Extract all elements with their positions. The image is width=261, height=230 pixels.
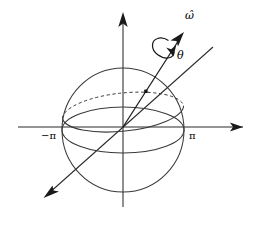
pi-negative-label: −π — [41, 130, 56, 141]
pi-positive-label: π — [189, 130, 196, 141]
point-marker-icon — [144, 90, 147, 93]
theta-label: θ — [177, 49, 184, 62]
omega-hat-label: ω̂ — [185, 9, 194, 22]
figure-canvas — [0, 0, 261, 230]
y-axis-arrow-head-icon — [44, 186, 60, 199]
omega-vector-arrow-icon — [171, 32, 185, 47]
y-axis-line — [48, 47, 213, 194]
rotation-arc — [153, 38, 174, 58]
rotation-arc-arrow-icon — [166, 46, 176, 57]
rotation-sphere-figure: ω̂ θ π −π — [0, 0, 261, 230]
